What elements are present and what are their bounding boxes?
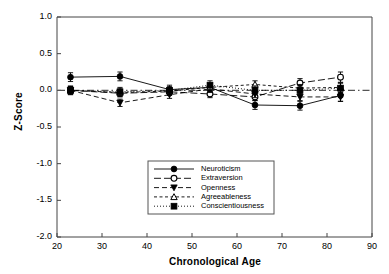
legend-marker-conscientiousness: [171, 203, 177, 209]
data-point-marker: [171, 203, 177, 209]
x-tick-label: 30: [91, 241, 113, 251]
data-point-marker: [338, 85, 344, 91]
y-tick-label: -2.0: [24, 231, 52, 241]
data-point-marker: [338, 74, 344, 80]
legend-item-label[interactable]: Agreeableness: [201, 192, 251, 201]
data-point-marker: [252, 87, 258, 93]
data-point-marker: [167, 87, 173, 93]
data-point-marker: [207, 82, 213, 88]
data-point-marker: [171, 175, 177, 181]
legend-item-label[interactable]: Neuroticism: [201, 164, 241, 173]
data-point-marker: [117, 100, 123, 106]
x-tick-label: 90: [361, 241, 383, 251]
legend-item-label[interactable]: Conscientiousness: [201, 201, 264, 210]
legend-marker-extraversion: [171, 175, 177, 181]
data-point-marker: [117, 89, 123, 95]
x-axis-title: Chronological Age: [57, 256, 373, 267]
x-tick-label: 50: [181, 241, 203, 251]
y-tick-label: -0.5: [24, 121, 52, 131]
data-point-marker: [297, 87, 303, 93]
x-tick-label: 60: [226, 241, 248, 251]
legend-item-label[interactable]: Openness: [201, 183, 235, 192]
plot-canvas: [0, 0, 389, 274]
data-point-marker: [68, 74, 74, 80]
chart-figure: Z-Score Chronological Age 20304050607080…: [0, 0, 389, 274]
y-tick-label: 0.0: [24, 84, 52, 94]
y-tick-label: 1.0: [24, 11, 52, 21]
legend-marker-neuroticism: [171, 166, 177, 172]
data-point-marker: [68, 87, 74, 93]
y-axis-title: Z-Score: [13, 77, 24, 147]
y-tick-label: -1.5: [24, 194, 52, 204]
data-point-marker: [117, 74, 123, 80]
data-point-marker: [171, 166, 177, 172]
data-point-marker: [297, 103, 303, 109]
x-tick-label: 80: [316, 241, 338, 251]
x-tick-label: 40: [136, 241, 158, 251]
x-tick-label: 20: [46, 241, 68, 251]
x-tick-label: 70: [271, 241, 293, 251]
y-tick-label: -1.0: [24, 158, 52, 168]
data-point-marker: [252, 102, 258, 108]
y-tick-label: 0.5: [24, 48, 52, 58]
legend-item-label[interactable]: Extraversion: [201, 173, 243, 182]
